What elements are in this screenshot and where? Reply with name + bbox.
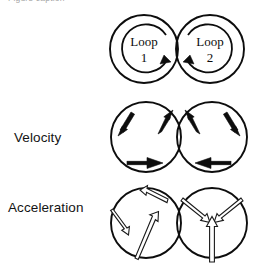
row-loops: Loop 1 Loop 2 (110, 15, 244, 83)
velocity-right-vector-upper-left (185, 110, 200, 134)
loop-1-number: 1 (141, 50, 148, 65)
velocity-left-vector-upper-right (158, 110, 173, 134)
velocity-left-vector-bottom (127, 158, 163, 169)
acceleration-right-vector-upper-right (214, 198, 243, 223)
diagram-svg: Loop 1 Loop 2 (0, 0, 264, 269)
acceleration-right-vector-upper-left (181, 198, 210, 223)
figure-root: Figure caption Velocity Acceleration Loo… (0, 0, 264, 269)
acceleration-left-vector-left (111, 209, 130, 235)
loop-2-number: 2 (207, 50, 214, 65)
velocity-right-vector-upper-right (223, 112, 240, 136)
loop-2-name: Loop (196, 34, 223, 49)
acceleration-left-vector-bottom (135, 212, 159, 260)
acceleration-right-vector-bottom (207, 217, 218, 263)
row-acceleration (111, 186, 247, 263)
velocity-left-vector-upper-left (118, 112, 135, 136)
row-velocity (111, 102, 247, 172)
loop-1-rotation-arrowhead (160, 55, 171, 64)
loop-2-rotation-arrowhead (183, 55, 194, 64)
loop-1-name: Loop (130, 34, 157, 49)
velocity-right-vector-bottom (195, 158, 231, 169)
